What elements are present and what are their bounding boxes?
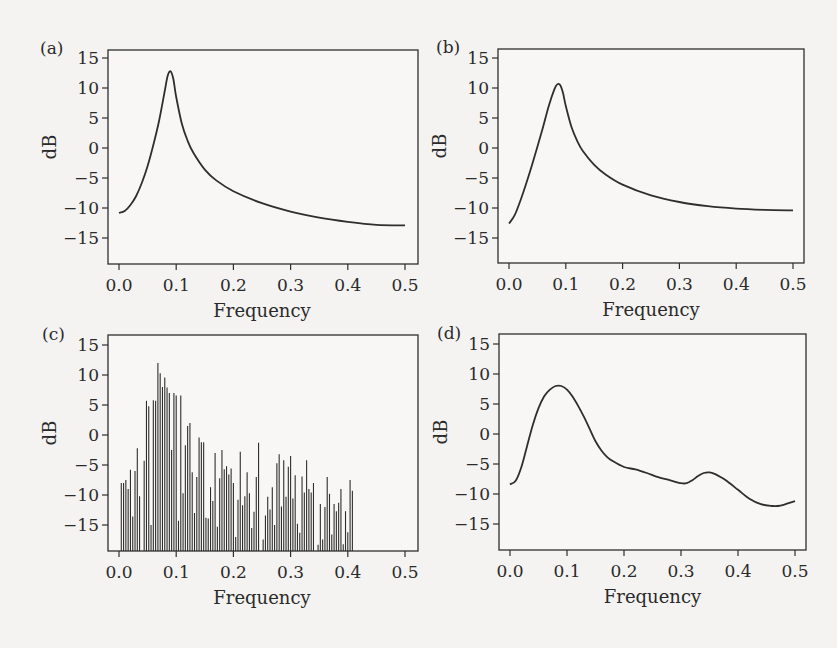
x-tick-label: 0.4 [724, 561, 751, 581]
y-tick-label: 0 [88, 425, 99, 445]
y-tick-label: 0 [88, 138, 99, 158]
x-tick-label: 0.1 [163, 562, 190, 582]
x-tick-label: 0.2 [610, 561, 637, 581]
y-tick-label: −10 [63, 485, 99, 505]
x-axis-title: Frequency [213, 300, 311, 321]
x-tick-label: 0.2 [609, 274, 636, 294]
x-tick-label: 0.3 [667, 561, 694, 581]
x-tick-label: 0.0 [495, 274, 522, 294]
plot-frame [108, 335, 418, 551]
panel-b: (b) 151050−5−10−150.00.10.20.30.40.5Freq… [420, 0, 837, 320]
x-tick-label: 0.4 [334, 562, 361, 582]
x-tick-label: 0.2 [220, 275, 247, 295]
y-tick-label: −15 [63, 515, 99, 535]
plot-frame [499, 334, 806, 550]
plot-frame [498, 49, 804, 263]
chart-b: 151050−5−10−150.00.10.20.30.40.5Frequenc… [420, 0, 837, 320]
x-tick-label: 0.5 [391, 562, 418, 582]
y-tick-label: 10 [468, 364, 490, 384]
y-tick-label: −5 [465, 454, 490, 474]
x-tick-label: 0.0 [105, 275, 132, 295]
x-tick-label: 0.4 [723, 274, 750, 294]
chart-d: 151050−5−10−150.00.10.20.30.40.5Frequenc… [420, 320, 837, 648]
y-axis-title: dB [430, 420, 451, 445]
y-tick-label: 10 [77, 365, 99, 385]
y-tick-label: 5 [88, 108, 99, 128]
panel-d: (d) 151050−5−10−150.00.10.20.30.40.5Freq… [420, 320, 837, 648]
y-tick-label: −15 [454, 514, 490, 534]
panel-c: (c) 151050−5−10−150.00.10.20.30.40.5Freq… [0, 320, 420, 648]
x-tick-label: 0.5 [779, 274, 806, 294]
y-tick-label: 5 [479, 394, 490, 414]
x-tick-label: 0.2 [220, 562, 247, 582]
y-tick-label: 15 [77, 335, 99, 355]
y-tick-label: 15 [467, 48, 489, 68]
plot-frame [108, 50, 418, 264]
y-tick-label: −10 [63, 198, 99, 218]
x-tick-label: 0.5 [781, 561, 808, 581]
y-axis-title: dB [39, 421, 60, 446]
y-tick-label: −15 [63, 228, 99, 248]
x-tick-label: 0.3 [277, 275, 304, 295]
y-axis-title: dB [429, 134, 450, 159]
y-tick-label: 15 [77, 48, 99, 68]
y-tick-label: 5 [478, 108, 489, 128]
x-tick-label: 0.5 [391, 275, 418, 295]
x-axis-title: Frequency [213, 587, 311, 608]
y-tick-label: 0 [478, 138, 489, 158]
x-tick-label: 0.1 [552, 274, 579, 294]
y-tick-label: 5 [88, 395, 99, 415]
y-tick-label: 10 [467, 78, 489, 98]
x-tick-label: 0.3 [277, 562, 304, 582]
y-tick-label: 15 [468, 334, 490, 354]
x-axis-title: Frequency [602, 299, 700, 320]
x-tick-label: 0.1 [163, 275, 190, 295]
y-tick-label: 0 [479, 424, 490, 444]
x-tick-label: 0.1 [553, 561, 580, 581]
x-tick-label: 0.4 [334, 275, 361, 295]
y-tick-label: −5 [74, 455, 99, 475]
panel-a: (a) 151050−5−10−150.00.10.20.30.40.5Freq… [0, 0, 420, 320]
y-tick-label: −15 [453, 228, 489, 248]
y-tick-label: −10 [454, 484, 490, 504]
x-tick-label: 0.3 [666, 274, 693, 294]
y-tick-label: 10 [77, 78, 99, 98]
chart-c: 151050−5−10−150.00.10.20.30.40.5Frequenc… [0, 320, 420, 648]
x-tick-label: 0.0 [496, 561, 523, 581]
chart-a: 151050−5−10−150.00.10.20.30.40.5Frequenc… [0, 0, 420, 320]
x-axis-title: Frequency [604, 586, 702, 607]
y-tick-label: −5 [74, 168, 99, 188]
y-tick-label: −10 [453, 198, 489, 218]
x-tick-label: 0.0 [105, 562, 132, 582]
y-tick-label: −5 [464, 168, 489, 188]
y-axis-title: dB [39, 135, 60, 160]
